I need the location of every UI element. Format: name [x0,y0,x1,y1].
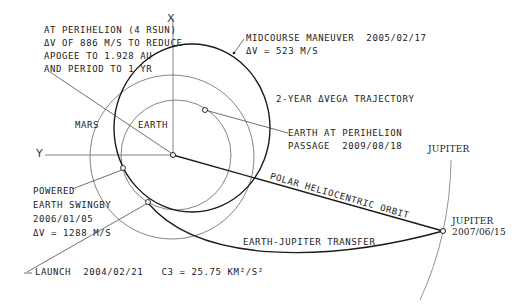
swingby-line-3: 2006/01/05 [33,212,111,226]
launch-marker [146,200,151,205]
perihelion-annotation: AT PERIHELION (4 RSUN) ΔV OF 886 M/S TO … [44,24,182,76]
perihelion-line-2: ΔV OF 886 M/S TO REDUCE [44,37,182,50]
jupiter-arrival-line-2: 2007/06/15 [452,227,506,238]
swingby-line-1: POWERED [33,184,111,198]
swingby-line-2: EARTH SWINGBY [33,198,111,212]
midcourse-marker [233,52,236,55]
swingby-annotation: POWERED EARTH SWINGBY 2006/01/05 ΔV = 12… [33,184,111,240]
midcourse-line-2: ΔV = 523 M/S [246,45,427,58]
earth-perihelion-leader [205,110,288,133]
midcourse-annotation: MIDCOURSE MANEUVER 2005/02/17 ΔV = 523 M… [246,32,427,58]
mars-label: MARS [75,119,99,132]
jupiter-orbit-label: JUPITER [428,144,470,155]
earth-perihelion-annotation: EARTH AT PERIHELION PASSAGE 2009/08/18 [288,127,402,153]
earth-label: EARTH [138,119,168,132]
sun-marker [171,153,176,158]
jupiter-orbit-arc [420,160,451,300]
jupiter-arrival-annotation: JUPITER 2007/06/15 [452,216,506,238]
earth-perihelion-line-1: EARTH AT PERIHELION [288,127,402,140]
transfer-label: EARTH-JUPITER TRANSFER [243,236,375,249]
jupiter-marker [441,229,446,234]
midcourse-line-1: MIDCOURSE MANEUVER 2005/02/17 [246,32,427,45]
perihelion-line-1: AT PERIHELION (4 RSUN) [44,24,182,37]
perihelion-leader [50,72,171,153]
swingby-marker [121,166,126,171]
earth-perihelion-marker [203,108,208,113]
perihelion-line-4: AND PERIOD TO 1 YR [44,63,182,76]
launch-label: LAUNCH 2004/02/21 C3 = 25.75 KM²/S² [35,266,264,279]
swingby-line-4: ΔV = 1288 M/S [33,226,111,240]
y-axis-label: Y [36,147,43,160]
trajectory-label: 2-YEAR ΔVEGA TRAJECTORY [276,93,414,106]
perihelion-line-3: APOGEE TO 1.928 AU [44,50,182,63]
midcourse-leader [234,39,244,53]
jupiter-arrival-line-1: JUPITER [452,216,506,227]
earth-perihelion-line-2: PASSAGE 2009/08/18 [288,140,402,153]
